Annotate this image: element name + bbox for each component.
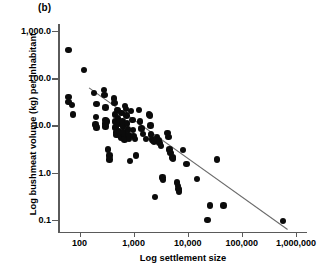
data-point <box>207 202 213 208</box>
data-point <box>133 152 139 158</box>
data-point <box>128 108 134 114</box>
x-tick <box>134 232 135 237</box>
data-point <box>152 194 158 200</box>
x-tick-label: 1,000,000 <box>276 238 316 248</box>
y-tick-label: 100.0 <box>28 73 59 83</box>
data-point <box>158 143 164 149</box>
data-point <box>204 217 210 223</box>
x-tick-label: 100 <box>72 238 87 248</box>
data-point <box>93 101 99 107</box>
data-point <box>147 112 153 118</box>
data-point <box>93 124 99 130</box>
data-point <box>65 47 71 53</box>
x-tick-label: 1,000 <box>122 238 145 248</box>
data-point <box>102 104 108 110</box>
data-point <box>214 156 220 162</box>
data-point <box>81 67 87 73</box>
y-tick-label: 0.1 <box>38 215 59 225</box>
x-tick <box>242 232 243 237</box>
x-tick <box>296 232 297 237</box>
scatter-chart-figure: (b) Log bushmeat volume (kg) per inhabit… <box>0 0 317 271</box>
panel-label: (b) <box>38 2 51 13</box>
data-point <box>170 155 176 161</box>
data-point <box>104 118 110 124</box>
y-tick-label: 10.0 <box>33 120 59 130</box>
data-point <box>160 177 166 183</box>
data-point <box>220 202 226 208</box>
x-tick-label: 10,000 <box>174 238 202 248</box>
data-point <box>106 156 112 162</box>
data-point <box>147 122 153 128</box>
x-tick <box>80 232 81 237</box>
y-tick-label: 1.0 <box>38 168 59 178</box>
data-point <box>136 107 142 113</box>
plot-area <box>58 24 307 232</box>
data-point <box>132 136 138 142</box>
data-point <box>70 111 76 117</box>
data-point <box>127 158 133 164</box>
data-point <box>101 92 107 98</box>
data-point <box>91 90 97 96</box>
x-tick-label: 100,000 <box>226 238 259 248</box>
x-axis-title: Log settlement size <box>58 253 308 263</box>
data-point <box>165 134 171 140</box>
data-point <box>137 118 143 124</box>
data-point <box>129 117 135 123</box>
y-tick-label: 1,000.0 <box>21 26 59 36</box>
data-point <box>180 147 186 153</box>
data-point <box>93 114 99 120</box>
data-point <box>194 176 200 182</box>
x-tick <box>188 232 189 237</box>
data-point <box>183 161 189 167</box>
data-point <box>176 188 182 194</box>
data-point <box>111 100 117 106</box>
data-point <box>280 218 286 224</box>
data-point <box>69 102 75 108</box>
